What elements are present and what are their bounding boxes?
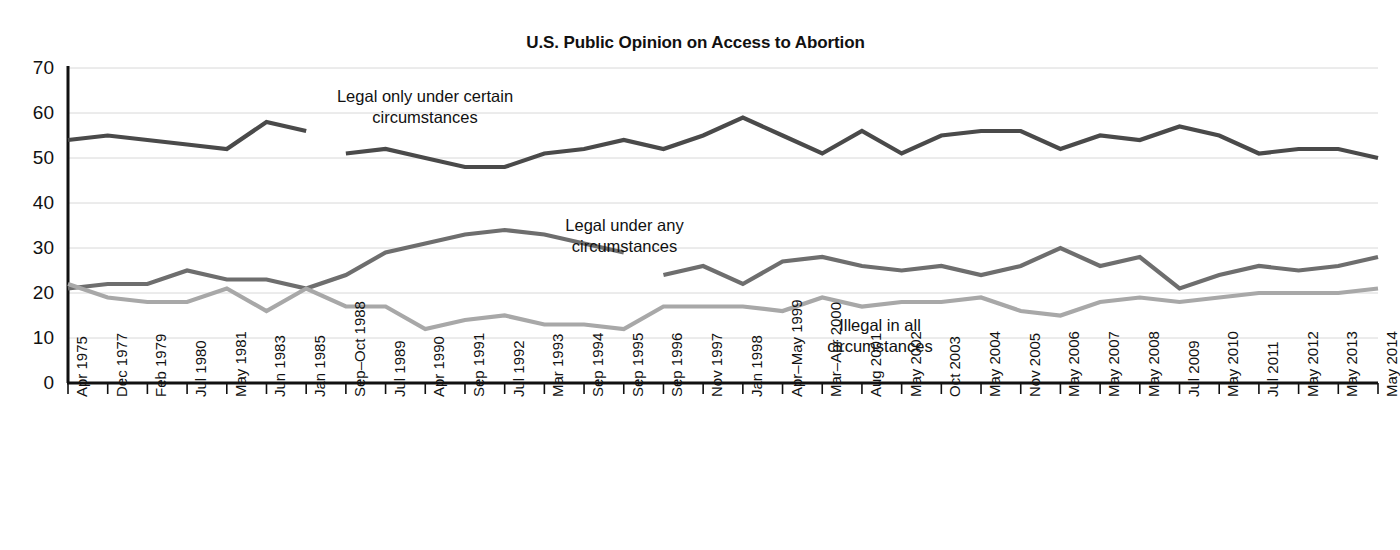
- y-tick-label: 70: [8, 58, 54, 77]
- x-tick-label: May 2008: [1146, 331, 1161, 397]
- x-tick-label: Jun 1983: [272, 335, 287, 397]
- x-tick-label: Nov 2005: [1027, 333, 1042, 397]
- series-annotation-line: Legal only under certain: [300, 86, 550, 107]
- x-tick-label: Jul 2011: [1265, 341, 1280, 397]
- x-tick-label: Nov 1997: [709, 333, 724, 397]
- y-tick-label: 60: [8, 103, 54, 122]
- series-line: [663, 248, 1378, 289]
- y-tick-label: 40: [8, 193, 54, 212]
- y-tick-label: 20: [8, 283, 54, 302]
- x-tick-label: Jan 1998: [749, 335, 764, 397]
- x-tick-label: Sep–Oct 1988: [352, 301, 367, 397]
- x-tick-label: Sep 1994: [590, 333, 605, 397]
- x-tick-label: Sep 1995: [630, 333, 645, 397]
- x-tick-label: May 2012: [1305, 331, 1320, 397]
- x-tick-label: Dec 1977: [114, 333, 129, 397]
- series-line: [68, 284, 1378, 329]
- x-tick-label: Mar 1993: [550, 334, 565, 397]
- y-tick-label: 50: [8, 148, 54, 167]
- series-annotation: Illegal in allcircumstances: [780, 315, 980, 356]
- x-tick-label: Jul 1980: [193, 340, 208, 397]
- x-tick-label: Apr 1975: [74, 336, 89, 397]
- x-tick-label: May 2013: [1344, 331, 1359, 397]
- x-tick-label: Sep 1991: [471, 333, 486, 397]
- x-tick-label: May 2010: [1225, 331, 1240, 397]
- series-annotation-line: circumstances: [517, 236, 732, 257]
- x-tick-label: Apr 1990: [431, 336, 446, 397]
- gridlines: [68, 68, 1378, 338]
- x-tick-label: May 1981: [233, 331, 248, 397]
- x-tick-label: May 2004: [987, 331, 1002, 397]
- x-tick-label: Jul 1992: [511, 340, 526, 397]
- x-tick-label: May 2006: [1066, 331, 1081, 397]
- series-annotation-line: Legal under any: [517, 215, 732, 236]
- y-tick-label: 10: [8, 328, 54, 347]
- x-tick-label: Feb 1979: [153, 334, 168, 397]
- x-tick-label: Jan 1985: [312, 335, 327, 397]
- series-annotation-line: circumstances: [780, 336, 980, 357]
- series-annotation: Legal under anycircumstances: [517, 215, 732, 256]
- series-annotation-line: Illegal in all: [780, 315, 980, 336]
- x-tick-label: Jul 1989: [392, 340, 407, 397]
- x-tick-label: Sep 1996: [669, 333, 684, 397]
- series-annotation-line: circumstances: [300, 107, 550, 128]
- y-tick-label: 0: [8, 373, 54, 392]
- x-tick-label: May 2007: [1106, 331, 1121, 397]
- x-tick-label: May 2014: [1384, 331, 1399, 397]
- x-tick-label: Jul 2009: [1186, 340, 1201, 397]
- y-tick-label: 30: [8, 238, 54, 257]
- series-line: [68, 122, 306, 149]
- series-annotation: Legal only under certaincircumstances: [300, 86, 550, 127]
